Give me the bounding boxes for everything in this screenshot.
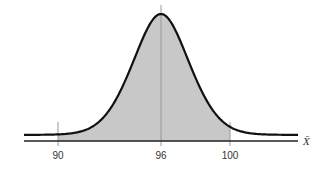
tick-label-100: 100 — [222, 150, 239, 161]
axis-variable-label: X̄ — [302, 135, 311, 147]
tick-label-90: 90 — [52, 150, 64, 161]
distribution-diagram: 90 96 100 X̄ — [0, 0, 324, 171]
shaded-area-90-to-100 — [58, 14, 230, 141]
tick-label-96: 96 — [155, 150, 167, 161]
